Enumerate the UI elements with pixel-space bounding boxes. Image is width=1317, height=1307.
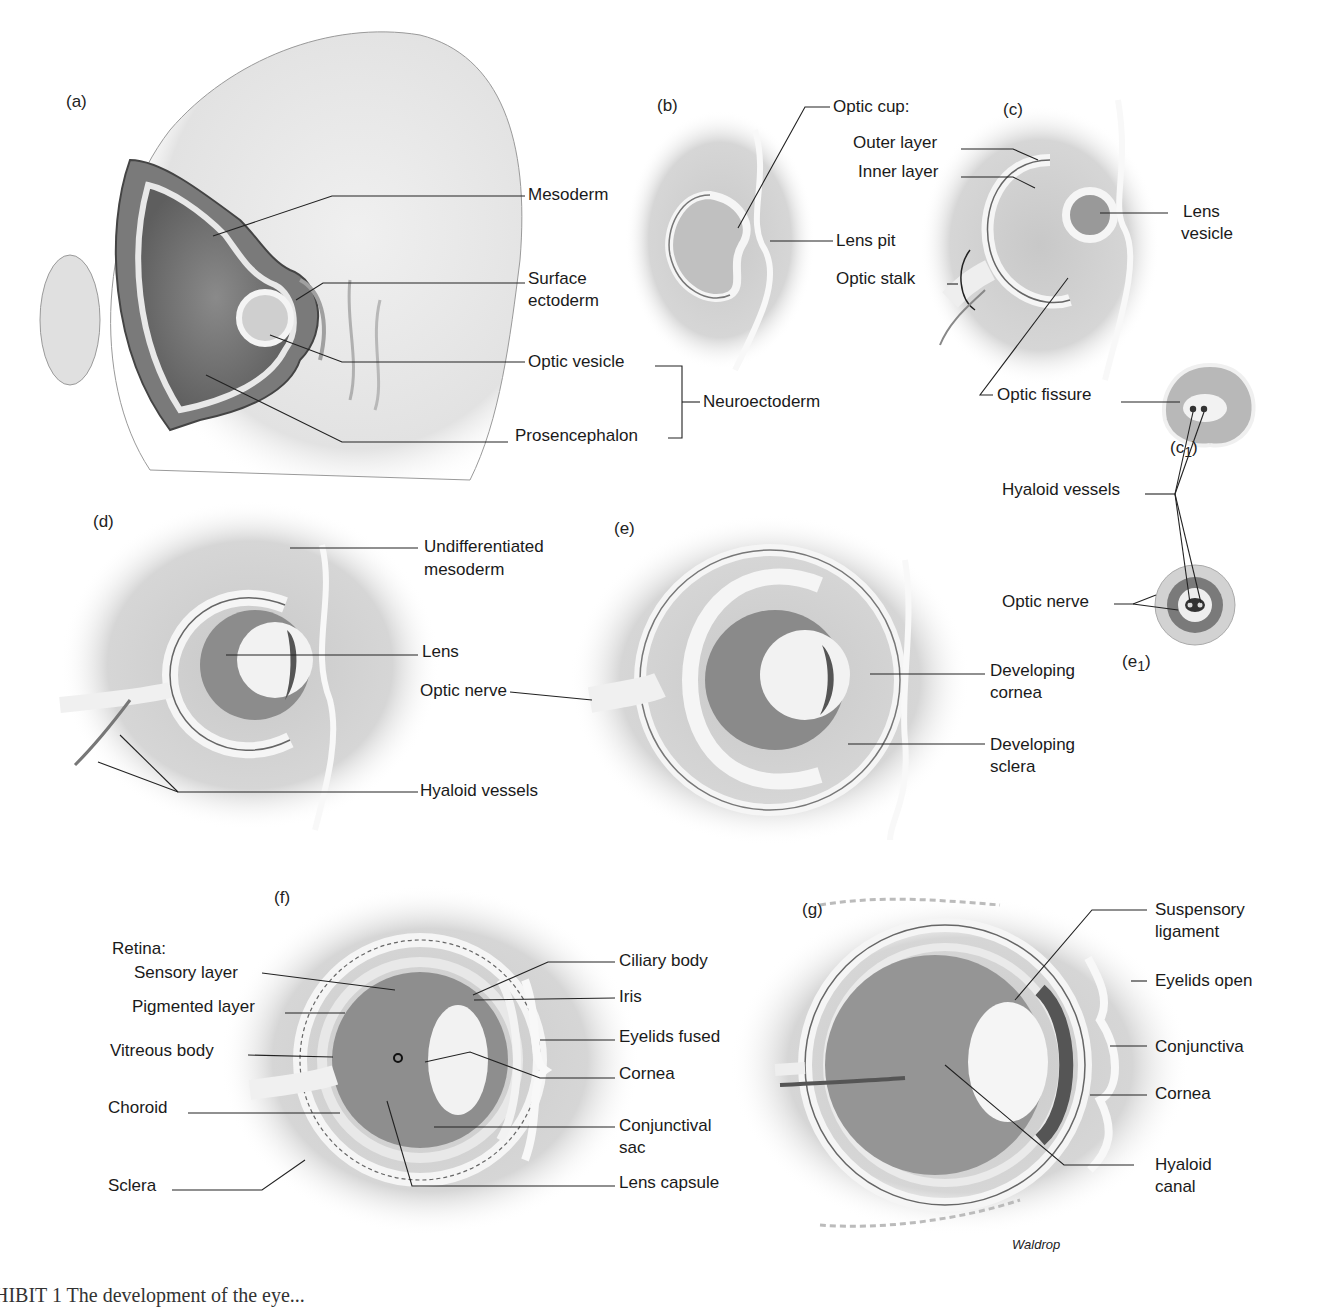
panel-d-illustration [60, 500, 440, 830]
label-dev-cornea-2: cornea [990, 682, 1042, 704]
label-dev-sclera-1: Developing [990, 734, 1075, 756]
label-lens-capsule: Lens capsule [619, 1172, 719, 1194]
panel-e1-id: (e1) [1122, 652, 1151, 674]
label-surface-ectoderm-2: ectoderm [528, 290, 599, 312]
label-cornea-g: Cornea [1155, 1083, 1211, 1105]
label-surface-ectoderm-1: Surface [528, 268, 587, 290]
label-optic-fissure: Optic fissure [997, 384, 1091, 406]
label-optic-stalk: Optic stalk [836, 268, 915, 290]
label-mesoderm: Mesoderm [528, 184, 608, 206]
label-conj-sac-1: Conjunctival [619, 1115, 712, 1137]
panel-e-id: (e) [614, 519, 635, 539]
figure-caption: HIBIT 1 The development of the eye... [0, 1284, 305, 1307]
panel-c1-id-main: (c [1170, 438, 1184, 457]
neuroectoderm-bracket [655, 366, 682, 438]
label-prosencephalon: Prosencephalon [515, 425, 638, 447]
label-neuroectoderm: Neuroectoderm [703, 391, 820, 413]
label-conjunctiva: Conjunctiva [1155, 1036, 1244, 1058]
label-sensory-layer: Sensory layer [134, 962, 238, 984]
panel-b-illustration [625, 110, 815, 370]
label-vitreous-body: Vitreous body [110, 1040, 214, 1062]
label-hyaloid-vessels-d: Hyaloid vessels [420, 780, 538, 802]
panel-e1-id-main: (e [1122, 652, 1137, 671]
label-hyaloid-canal-1: Hyaloid [1155, 1154, 1212, 1176]
panel-e1-id-close: ) [1145, 652, 1151, 671]
leader-optic-nerve-e1-a [1114, 595, 1156, 604]
label-undifferentiated-2: mesoderm [424, 559, 504, 581]
label-optic-vesicle: Optic vesicle [528, 351, 624, 373]
label-lens-vesicle-1: Lens [1183, 201, 1220, 223]
panel-e1-id-sub: 1 [1137, 658, 1145, 674]
label-retina: Retina: [112, 938, 166, 960]
label-pigmented-layer: Pigmented layer [132, 996, 255, 1018]
artist-credit: Waldrop [1012, 1237, 1060, 1252]
label-iris: Iris [619, 986, 642, 1008]
panel-g-illustration [730, 895, 1190, 1235]
panel-c1-id-sub: 1 [1184, 444, 1192, 460]
label-hyaloid-vessels-c1: Hyaloid vessels [1002, 479, 1120, 501]
label-undifferentiated-1: Undifferentiated [424, 536, 544, 558]
label-ciliary-body: Ciliary body [619, 950, 708, 972]
label-lens-pit: Lens pit [836, 230, 896, 252]
label-lens-vesicle-2: vesicle [1181, 223, 1233, 245]
label-inner-layer: Inner layer [858, 161, 938, 183]
label-optic-cup: Optic cup: [833, 96, 910, 118]
label-suspensory-1: Suspensory [1155, 899, 1245, 921]
label-hyaloid-canal-2: canal [1155, 1176, 1196, 1198]
label-conj-sac-2: sac [619, 1137, 645, 1159]
panel-e-illustration [570, 515, 970, 845]
panel-c-illustration [920, 100, 1160, 385]
label-suspensory-2: ligament [1155, 921, 1219, 943]
label-cornea-f: Cornea [619, 1063, 675, 1085]
label-dev-sclera-2: sclera [990, 756, 1035, 778]
label-optic-nerve-e1: Optic nerve [1002, 591, 1089, 613]
panel-c1-id: (c1) [1170, 438, 1198, 460]
panel-c1-illustration [1164, 365, 1253, 446]
label-optic-nerve-d: Optic nerve [420, 680, 507, 702]
panel-f-id: (f) [274, 888, 290, 908]
panel-b-id: (b) [657, 96, 678, 116]
panel-c-id: (c) [1003, 100, 1023, 120]
label-sclera: Sclera [108, 1175, 156, 1197]
panel-f-illustration [220, 885, 640, 1235]
panel-a-illustration [40, 32, 522, 480]
panel-a-id: (a) [66, 92, 87, 112]
panel-d-id: (d) [93, 512, 114, 532]
label-choroid: Choroid [108, 1097, 168, 1119]
panel-g-id: (g) [802, 900, 823, 920]
label-eyelids-open: Eyelids open [1155, 970, 1252, 992]
label-eyelids-fused: Eyelids fused [619, 1026, 720, 1048]
panel-c1-id-close: ) [1192, 438, 1198, 457]
label-dev-cornea-1: Developing [990, 660, 1075, 682]
label-lens-d: Lens [422, 641, 459, 663]
label-outer-layer: Outer layer [853, 132, 937, 154]
